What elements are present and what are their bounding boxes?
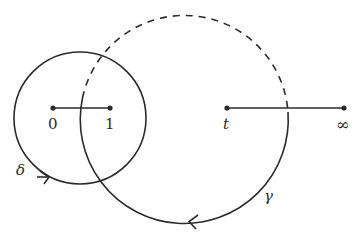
label-one: 1 — [105, 117, 115, 132]
label-infinity: ∞ — [336, 117, 349, 133]
point-infinity — [341, 105, 346, 110]
point-0 — [50, 105, 55, 110]
point-1 — [107, 105, 112, 110]
label-t: t — [223, 117, 229, 132]
label-delta: δ — [16, 163, 25, 178]
contour-diagram: 0 1 t ∞ δ γ — [0, 0, 360, 242]
point-t — [224, 105, 229, 110]
label-zero: 0 — [48, 117, 58, 132]
gamma-dashed-arc — [83, 15, 289, 112]
label-gamma: γ — [264, 189, 273, 204]
